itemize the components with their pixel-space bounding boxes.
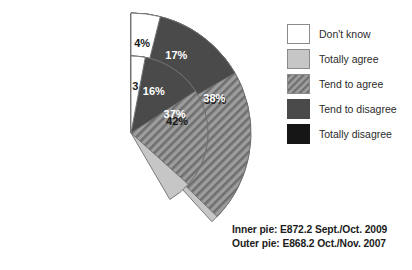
pie-chart-figure: 39%38%17%4%4%42%37%16%33 Don't know Tota…	[0, 0, 412, 270]
legend-item-dont-know[interactable]: Don't know	[287, 23, 412, 45]
legend-swatch-totally-agree	[287, 49, 310, 69]
legend-item-tend-to-agree[interactable]: Tend to agree	[287, 73, 412, 95]
legend-item-tend-to-disagree[interactable]: Tend to disagree	[287, 98, 412, 120]
legend-label-totally-agree: Totally agree	[319, 54, 379, 65]
caption-inner-pie: Inner pie: E872.2 Sept./Oct. 2009	[232, 223, 387, 237]
label-inner-tend-to-agree: 37%	[164, 108, 186, 120]
legend-swatch-totally-disagree	[287, 124, 310, 144]
caption-outer-pie: Outer pie: E868.2 Oct./Nov. 2007	[232, 237, 387, 251]
legend-label-tend-to-disagree: Tend to disagree	[319, 104, 397, 115]
legend-swatch-dont-know	[287, 24, 310, 44]
label-outer-don-t-know: 4%	[134, 37, 150, 49]
legend-label-tend-to-agree: Tend to agree	[319, 79, 383, 90]
legend-swatch-tend-to-agree	[287, 74, 310, 94]
chart-caption: Inner pie: E872.2 Sept./Oct. 2009 Outer …	[232, 223, 387, 250]
legend-item-totally-agree[interactable]: Totally agree	[287, 48, 412, 70]
legend-swatch-tend-to-disagree	[287, 99, 310, 119]
legend-label-totally-disagree: Totally disagree	[319, 129, 392, 140]
chart-legend: Don't know Totally agree Tend to agree T…	[287, 23, 412, 148]
label-inner-tend-to-disagree: 16%	[143, 85, 165, 97]
label-outer-tend-to-disagree: 17%	[165, 49, 187, 61]
label-outer-tend-to-agree: 38%	[203, 92, 225, 104]
legend-item-totally-disagree[interactable]: Totally disagree	[287, 123, 412, 145]
label-inner-don-t-know: 3	[132, 80, 138, 92]
legend-label-dont-know: Don't know	[319, 29, 371, 40]
